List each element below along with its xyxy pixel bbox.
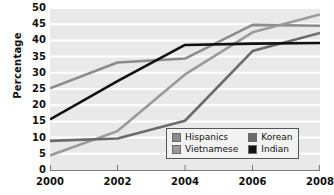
x-tick-label: 2004 (171, 176, 199, 188)
y-tick-label: 15 (22, 116, 46, 126)
x-axis-tick-labels: 20002002200420062008 (50, 176, 320, 192)
series-line-korean (50, 33, 320, 141)
legend-item: Korean (248, 132, 292, 143)
legend-label: Vietnamese (185, 144, 238, 155)
legend-label: Hispanics (185, 132, 228, 143)
x-tick-label: 2006 (239, 176, 267, 188)
legend-swatch-icon (172, 145, 181, 154)
legend-label: Korean (261, 132, 292, 143)
legend-swatch-icon (248, 133, 257, 142)
x-tick-label: 2000 (36, 176, 64, 188)
y-tick-label: 50 (22, 3, 46, 13)
legend-swatch-icon (248, 145, 257, 154)
legend-item: Vietnamese (172, 144, 238, 155)
y-tick-label: 10 (22, 133, 46, 143)
x-tick-label: 2002 (104, 176, 132, 188)
y-tick-label: 0 (22, 165, 46, 175)
chart-legend: HispanicsKoreanVietnameseIndian (166, 128, 299, 159)
y-tick-label: 5 (22, 149, 46, 159)
legend-swatch-icon (172, 133, 181, 142)
legend-item: Indian (248, 144, 292, 155)
x-axis-line (50, 170, 320, 171)
legend-label: Indian (261, 144, 289, 155)
x-tick-label: 2008 (306, 176, 334, 188)
legend-item: Hispanics (172, 132, 238, 143)
y-axis-label: Percentage (12, 21, 23, 111)
y-tick-label: 25 (22, 84, 46, 94)
y-tick-label: 40 (22, 35, 46, 45)
series-line-indian (50, 43, 320, 119)
y-tick-label: 35 (22, 52, 46, 62)
y-axis-tick-labels: 05101520253035404550 (22, 8, 46, 170)
y-tick-label: 45 (22, 19, 46, 29)
y-tick-label: 30 (22, 68, 46, 78)
y-tick-label: 20 (22, 100, 46, 110)
